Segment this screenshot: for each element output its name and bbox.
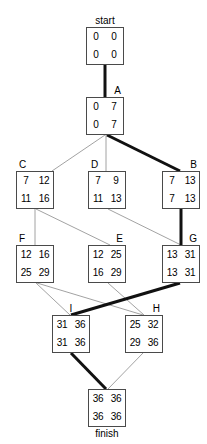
node-C-ef-value: 12	[35, 172, 53, 190]
node-F-lf-value: 29	[35, 264, 53, 282]
node-start-ef-value: 0	[105, 28, 123, 46]
node-F[interactable]: 12162529F	[16, 245, 54, 283]
node-A-ef-value: 7	[105, 98, 123, 116]
edge-I-to-finish	[71, 353, 106, 389]
edge-C-to-E	[36, 209, 110, 245]
node-start-lf-value: 0	[105, 46, 123, 64]
node-I-ef-value: 36	[71, 316, 89, 334]
node-I-lf-value: 36	[71, 334, 89, 352]
node-D-ls-value: 11	[89, 190, 107, 208]
node-A-es-value: 0	[87, 98, 105, 116]
node-D-ef-value: 9	[107, 172, 125, 190]
node-start-label: start	[87, 16, 123, 26]
node-G-lf-value: 31	[181, 264, 199, 282]
node-A[interactable]: 0707A	[86, 97, 124, 135]
network-diagram-canvas: 0000start0707A7121116C791113D713713B1216…	[0, 0, 207, 444]
node-A-label: A	[114, 86, 121, 96]
node-D[interactable]: 791113D	[88, 171, 126, 209]
node-start[interactable]: 0000start	[86, 27, 124, 65]
node-finish-es-value: 36	[89, 390, 107, 408]
node-C[interactable]: 7121116C	[16, 171, 54, 209]
node-H-lf-value: 36	[144, 334, 162, 352]
edge-H-to-finish	[108, 353, 143, 389]
node-B-ls-value: 7	[163, 190, 181, 208]
node-A-ls-value: 0	[87, 116, 105, 134]
node-G-label: G	[189, 234, 197, 244]
node-B-label: B	[190, 160, 197, 170]
node-H-ef-value: 32	[144, 316, 162, 334]
node-I[interactable]: 31363136I	[52, 315, 90, 353]
node-E[interactable]: 12251629E	[88, 245, 126, 283]
node-start-ls-value: 0	[87, 46, 105, 64]
node-E-es-value: 12	[89, 246, 107, 264]
edge-layer	[0, 0, 207, 444]
node-D-lf-value: 13	[107, 190, 125, 208]
node-finish-ls-value: 36	[89, 408, 107, 426]
node-F-ef-value: 16	[35, 246, 53, 264]
node-H-ls-value: 29	[126, 334, 144, 352]
node-I-es-value: 31	[53, 316, 71, 334]
node-E-label: E	[116, 234, 123, 244]
node-C-label: C	[19, 160, 26, 170]
node-H-es-value: 25	[126, 316, 144, 334]
node-C-es-value: 7	[17, 172, 35, 190]
node-H[interactable]: 25322936H	[125, 315, 163, 353]
node-I-ls-value: 31	[53, 334, 71, 352]
node-finish-label: finish	[83, 429, 131, 439]
node-I-label: I	[53, 304, 89, 314]
node-finish-lf-value: 36	[107, 408, 125, 426]
node-E-ef-value: 25	[107, 246, 125, 264]
node-B[interactable]: 713713B	[162, 171, 200, 209]
node-H-label: H	[153, 304, 160, 314]
node-B-lf-value: 13	[181, 190, 199, 208]
node-G-es-value: 13	[163, 246, 181, 264]
node-G[interactable]: 13311331G	[162, 245, 200, 283]
node-start-es-value: 0	[87, 28, 105, 46]
node-F-es-value: 12	[17, 246, 35, 264]
node-G-ef-value: 31	[181, 246, 199, 264]
node-G-ls-value: 13	[163, 264, 181, 282]
node-finish[interactable]: 36363636finish	[88, 389, 126, 427]
node-finish-ef-value: 36	[107, 390, 125, 408]
node-E-lf-value: 29	[107, 264, 125, 282]
node-E-ls-value: 16	[89, 264, 107, 282]
node-C-ls-value: 11	[17, 190, 35, 208]
node-F-label: F	[19, 234, 25, 244]
node-F-ls-value: 25	[17, 264, 35, 282]
edge-A-to-B	[107, 135, 180, 171]
node-B-es-value: 7	[163, 172, 181, 190]
node-B-ef-value: 13	[181, 172, 199, 190]
node-D-label: D	[91, 160, 98, 170]
node-A-lf-value: 7	[105, 116, 123, 134]
node-C-lf-value: 16	[35, 190, 53, 208]
node-D-es-value: 7	[89, 172, 107, 190]
